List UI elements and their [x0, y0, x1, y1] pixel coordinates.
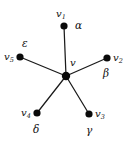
- vertex-label-v: v: [70, 58, 76, 68]
- node-v4: [33, 109, 40, 116]
- edge-v-v1: [64, 26, 66, 76]
- edge-group: [20, 26, 107, 114]
- node-group: [16, 22, 110, 117]
- vertex-label-v2-subscript: 2: [119, 57, 123, 65]
- vertex-label-v4-subscript: 4: [27, 112, 31, 120]
- vertex-label-v4: v4: [21, 108, 31, 119]
- vertex-label-v3: v3: [95, 109, 105, 120]
- edge-v-v5: [20, 57, 66, 76]
- vertex-label-v1: v1: [56, 9, 66, 20]
- star-graph-figure: v v1 v2 v3 v4 v5 α β γ δ ε: [0, 0, 134, 142]
- vertex-label-v1-subscript: 1: [62, 13, 66, 21]
- node-v1: [60, 22, 67, 29]
- node-center-v: [62, 72, 70, 80]
- node-v3: [85, 110, 92, 117]
- node-v2: [103, 54, 110, 61]
- edge-v-v4: [37, 76, 66, 113]
- edge-label-gamma: γ: [86, 125, 92, 136]
- vertex-label-v5: v5: [4, 52, 14, 63]
- edge-label-epsilon: ε: [22, 38, 28, 49]
- edge-label-delta: δ: [33, 124, 39, 135]
- edge-label-alpha: α: [75, 20, 82, 31]
- vertex-label-v2: v2: [113, 53, 123, 64]
- edge-label-beta: β: [103, 68, 109, 79]
- edge-v-v3: [66, 76, 89, 114]
- vertex-label-v3-subscript: 3: [101, 113, 105, 121]
- graph-canvas: [0, 0, 134, 142]
- node-v5: [16, 53, 23, 60]
- vertex-label-v5-subscript: 5: [10, 56, 14, 64]
